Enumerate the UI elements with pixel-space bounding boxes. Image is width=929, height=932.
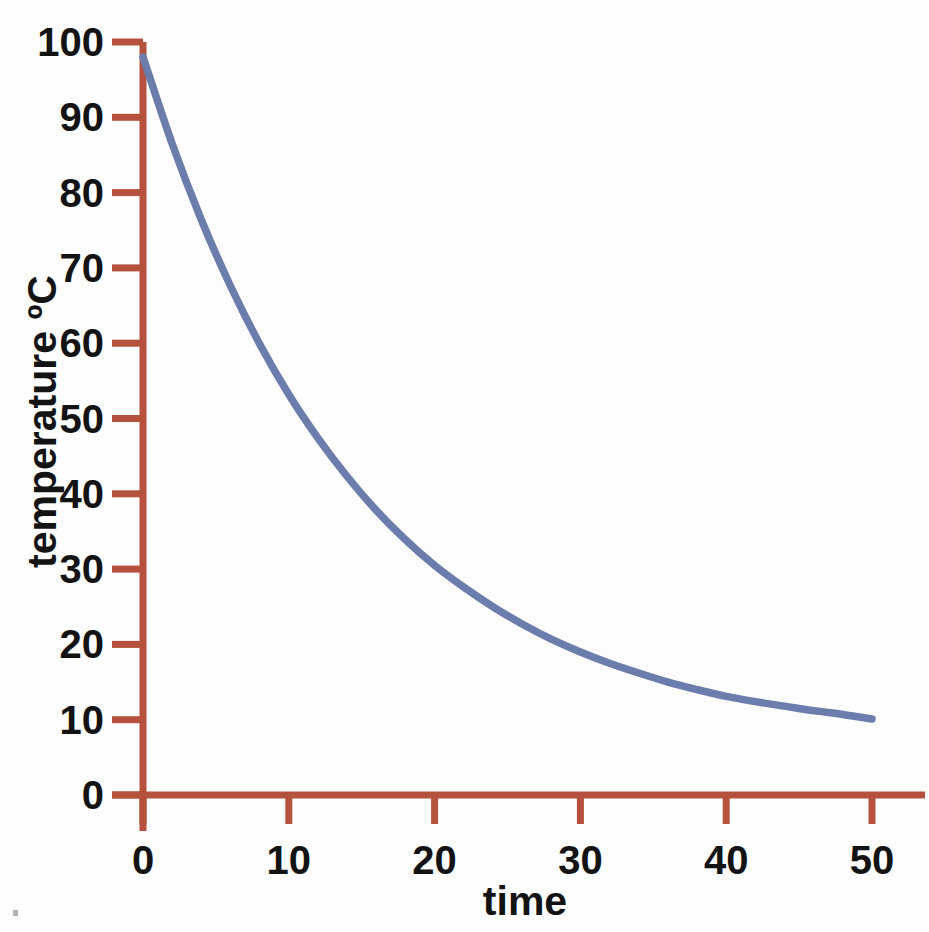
x-axis-title: time	[425, 878, 625, 925]
chart-page: 0102030405060708090100 01020304050 tempe…	[0, 0, 929, 932]
y-tick-label: 0	[0, 775, 104, 815]
x-tick-label: 50	[850, 840, 895, 880]
y-axis-title: temperature ºC	[19, 262, 66, 582]
y-tick-label: 80	[0, 173, 104, 213]
plot-canvas	[0, 0, 929, 932]
y-tick-label: 20	[0, 624, 104, 664]
x-tick-label: 20	[412, 840, 457, 880]
x-tick-label: 30	[558, 840, 603, 880]
cooling-curve-path	[143, 57, 872, 719]
x-tick-label: 10	[267, 840, 312, 880]
x-tick-label: 40	[704, 840, 749, 880]
y-tick-label: 10	[0, 700, 104, 740]
y-tick-label: 100	[0, 22, 104, 62]
tick-marks-group	[112, 42, 872, 824]
x-tick-label: 0	[132, 840, 154, 880]
y-tick-label: 90	[0, 97, 104, 137]
scan-artifact-speck	[13, 910, 18, 916]
